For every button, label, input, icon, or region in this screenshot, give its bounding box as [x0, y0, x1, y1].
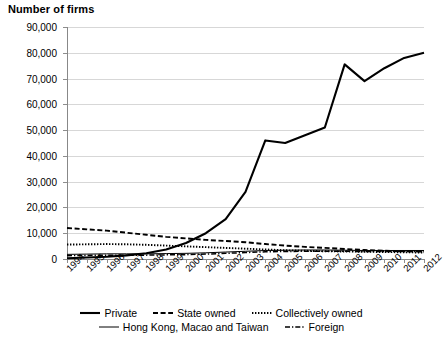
legend-line-icon: [252, 308, 272, 318]
legend-row: Hong Kong, Macao and TaiwanForeign: [0, 320, 443, 334]
legend-row: PrivateState ownedCollectively owned: [0, 306, 443, 320]
y-tick-label: 0: [51, 254, 57, 265]
y-tick-label: 60,000: [26, 99, 57, 110]
legend-line-icon: [285, 322, 305, 332]
series-line: [67, 53, 424, 258]
legend-line-icon: [153, 308, 173, 318]
y-tick-label: 30,000: [26, 176, 57, 187]
legend-label: Hong Kong, Macao and Taiwan: [123, 321, 269, 333]
legend-label: Private: [104, 307, 137, 319]
y-tick-label: 90,000: [26, 22, 57, 33]
legend-item[interactable]: State owned: [153, 307, 235, 319]
y-tick-label: 10,000: [26, 228, 57, 239]
legend-label: Foreign: [309, 321, 345, 333]
chart-legend: PrivateState ownedCollectively ownedHong…: [0, 306, 443, 334]
legend-item[interactable]: Private: [80, 307, 137, 319]
y-tick-label: 70,000: [26, 73, 57, 84]
y-tick-label: 80,000: [26, 47, 57, 58]
legend-label: State owned: [177, 307, 235, 319]
legend-label: Collectively owned: [276, 307, 363, 319]
legend-item[interactable]: Collectively owned: [252, 307, 363, 319]
x-tick-label: 2012: [421, 251, 443, 274]
legend-line-icon: [80, 308, 100, 318]
legend-line-icon: [99, 322, 119, 332]
y-tick-label: 50,000: [26, 125, 57, 136]
series-plot: [67, 27, 424, 259]
series-line: [67, 228, 424, 251]
legend-item[interactable]: Hong Kong, Macao and Taiwan: [99, 321, 269, 333]
y-tick-label: 20,000: [26, 202, 57, 213]
y-tick-label: 40,000: [26, 150, 57, 161]
chart-container: Number of firms 90,00080,00070,00060,000…: [0, 0, 443, 344]
legend-item[interactable]: Foreign: [285, 321, 345, 333]
y-axis-labels: 90,00080,00070,00060,00050,00040,00030,0…: [0, 0, 62, 344]
